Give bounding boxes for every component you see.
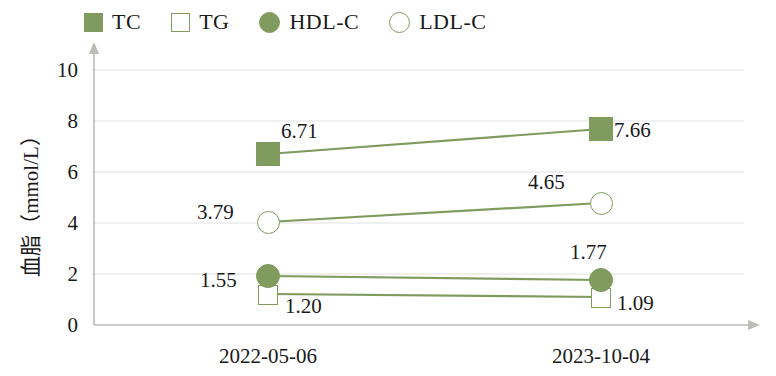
y-tick-10: 10 — [44, 58, 78, 83]
y-tick-2: 2 — [44, 262, 78, 287]
y-tick-8: 8 — [44, 109, 78, 134]
value-label-tg-2: 1.09 — [617, 291, 654, 316]
value-label-tc-1: 6.71 — [281, 119, 318, 144]
axis-lines — [89, 42, 760, 330]
chart-svg — [0, 0, 776, 376]
y-axis-title: 血脂（mmol/L） — [14, 86, 44, 316]
value-label-tg-1: 1.20 — [285, 294, 322, 319]
data-point-tc-2[interactable] — [589, 117, 613, 141]
x-axis-arrow — [748, 320, 760, 330]
y-tick-6: 6 — [44, 160, 78, 185]
data-point-tc-1[interactable] — [256, 142, 280, 166]
value-label-ldl-c-2: 4.65 — [528, 170, 565, 195]
data-point-hdl-c-2[interactable] — [589, 268, 613, 292]
x-tick-2022-05-06: 2022-05-06 — [178, 344, 358, 369]
data-point-ldl-c-1[interactable] — [257, 211, 280, 234]
y-axis-arrow — [89, 42, 99, 54]
data-point-tg-1[interactable] — [258, 285, 278, 305]
series-line-tc — [268, 129, 601, 154]
data-point-hdl-c-1[interactable] — [256, 264, 280, 288]
series-line-ldl-c — [268, 203, 601, 222]
value-label-tc-2: 7.66 — [614, 118, 651, 143]
y-tick-0: 0 — [44, 313, 78, 338]
series-line-hdl-c — [268, 276, 601, 280]
value-label-hdl-c-2: 1.77 — [570, 240, 607, 265]
gridlines — [94, 70, 744, 274]
chart-page: TC TG HDL-C LDL-C — [0, 0, 776, 376]
value-label-ldl-c-1: 3.79 — [197, 200, 234, 225]
y-tick-4: 4 — [44, 211, 78, 236]
value-label-hdl-c-1: 1.55 — [200, 268, 237, 293]
data-point-ldl-c-2[interactable] — [590, 192, 613, 215]
plot-area: 血脂（mmol/L） 10 8 6 4 2 0 2022-05-06 2023-… — [0, 0, 776, 376]
series-lines — [268, 129, 601, 297]
x-tick-2023-10-04: 2023-10-04 — [511, 344, 691, 369]
